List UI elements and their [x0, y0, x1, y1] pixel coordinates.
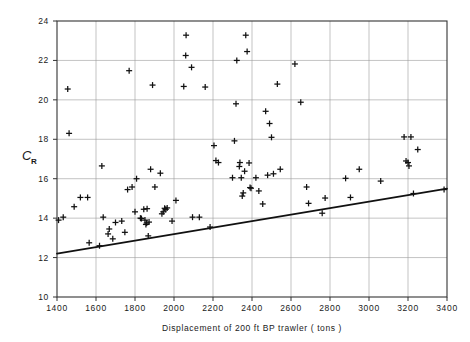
data-point: [196, 214, 202, 220]
data-point: [202, 84, 208, 90]
data-point: [148, 166, 154, 172]
y-axis-title-subscript: R: [31, 157, 37, 166]
y-tick-label: 20: [38, 95, 49, 105]
axis-ticks: [53, 21, 447, 301]
x-tick-label: 2800: [319, 303, 341, 313]
data-point: [105, 231, 111, 237]
x-tick-label: 3400: [436, 303, 458, 313]
x-axis-title: Displacement of 200 ft BP trawler ( tons…: [162, 323, 342, 333]
data-point: [99, 163, 105, 169]
data-point: [319, 210, 325, 216]
x-tick-label: 2000: [163, 303, 185, 313]
y-tick-label: 12: [38, 253, 49, 263]
y-tick-label: 14: [38, 213, 49, 223]
data-point: [246, 160, 252, 166]
data-point: [122, 229, 128, 235]
scatter-chart: 1400160018002000220024002600280030003200…: [0, 0, 470, 342]
data-point: [244, 49, 250, 55]
data-point: [66, 130, 72, 136]
chart-canvas: 1400160018002000220024002600280030003200…: [0, 0, 470, 342]
data-point: [238, 175, 244, 181]
y-tick-label: 18: [38, 134, 49, 144]
y-tick-label: 24: [38, 16, 49, 26]
data-point: [183, 53, 189, 59]
data-point: [230, 175, 236, 181]
data-point: [126, 68, 132, 74]
data-point: [144, 206, 150, 212]
data-point: [233, 101, 239, 107]
x-tick-label: 2400: [241, 303, 263, 313]
data-point: [110, 236, 116, 242]
data-point: [274, 81, 280, 87]
data-point: [347, 194, 353, 200]
grid-lines: [57, 21, 447, 297]
x-tick-label: 3000: [358, 303, 380, 313]
data-point: [240, 190, 246, 196]
data-point: [263, 108, 269, 114]
data-point: [253, 175, 259, 181]
data-point: [85, 194, 91, 200]
data-point: [181, 83, 187, 89]
data-point: [237, 160, 243, 166]
data-point: [152, 184, 158, 190]
y-tick-label: 22: [38, 55, 49, 65]
data-point: [322, 195, 328, 201]
x-tick-label: 2200: [202, 303, 224, 313]
data-point: [71, 204, 77, 210]
data-point: [415, 147, 421, 153]
data-point: [77, 194, 83, 200]
data-point: [267, 121, 273, 127]
data-point: [248, 185, 254, 191]
tick-labels-y: 1012141618202224: [38, 16, 49, 302]
data-point: [306, 200, 312, 206]
data-point: [292, 61, 298, 67]
data-point: [243, 32, 249, 38]
data-point: [260, 201, 266, 207]
x-tick-label: 1400: [46, 303, 68, 313]
data-point: [211, 143, 217, 149]
data-point: [270, 171, 276, 177]
x-tick-label: 3200: [397, 303, 419, 313]
y-tick-label: 10: [38, 292, 49, 302]
data-point: [231, 138, 237, 144]
x-tick-label: 1600: [85, 303, 107, 313]
data-point: [86, 240, 92, 246]
data-point: [356, 166, 362, 172]
data-point: [157, 170, 163, 176]
data-point: [60, 214, 66, 220]
data-point: [150, 82, 156, 88]
data-point: [265, 172, 271, 178]
x-tick-label: 1800: [124, 303, 146, 313]
data-point: [234, 57, 240, 63]
data-point: [256, 188, 262, 194]
data-point: [183, 32, 189, 38]
data-point: [119, 218, 125, 224]
data-point: [239, 193, 245, 199]
data-point: [277, 166, 283, 172]
tick-labels-x: 1400160018002000220024002600280030003200…: [46, 303, 458, 313]
data-point: [100, 214, 106, 220]
data-point: [304, 184, 310, 190]
x-tick-label: 2600: [280, 303, 302, 313]
data-point: [190, 214, 196, 220]
data-point: [406, 163, 412, 169]
data-point: [132, 209, 138, 215]
data-point: [106, 226, 112, 232]
data-point: [189, 64, 195, 70]
data-point: [65, 86, 71, 92]
y-tick-label: 16: [38, 174, 49, 184]
data-point: [113, 219, 119, 225]
data-point: [343, 175, 349, 181]
data-point: [242, 168, 248, 174]
data-point: [134, 176, 140, 182]
data-points: [56, 32, 448, 249]
